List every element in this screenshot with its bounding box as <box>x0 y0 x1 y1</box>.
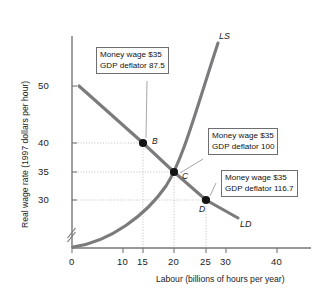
x-tick-label-25: 25 <box>200 256 211 267</box>
x-tick-label-40: 40 <box>271 256 282 267</box>
data-point-label-b: B <box>152 136 158 146</box>
annotation-callout-b: Money wage $35 GDP deflator 87.5 <box>96 47 169 74</box>
data-point-d <box>202 196 210 204</box>
annotation-c-line1: Money wage $35 <box>212 131 274 142</box>
guide-lines <box>72 143 206 248</box>
y-axis-ticks <box>72 86 77 200</box>
x-tick-label-15: 15 <box>137 256 148 267</box>
annotation-b-line2: GDP deflator 87.5 <box>100 61 165 72</box>
chart-figure: 50 40 35 30 0 10 15 20 25 30 40 Real wag… <box>0 0 329 295</box>
data-point-label-d: D <box>199 204 205 214</box>
leader-line-b <box>146 81 147 138</box>
data-point-label-c: C <box>182 171 188 181</box>
y-tick-label-50: 50 <box>38 80 49 91</box>
y-tick-label-40: 40 <box>38 137 49 148</box>
annotation-b-line1: Money wage $35 <box>100 50 165 61</box>
annotation-callout-c: Money wage $35 GDP deflator 100 <box>208 128 278 155</box>
data-point-b <box>139 139 147 147</box>
x-axis-title: Labour (billions of hours per year) <box>156 274 285 284</box>
annotation-callout-d: Money wage $35 GDP deflator 116.7 <box>221 170 298 197</box>
chart-plot-area <box>0 0 329 295</box>
x-tick-label-10: 10 <box>117 256 128 267</box>
x-tick-label-30: 30 <box>220 256 231 267</box>
y-tick-label-35: 35 <box>38 166 49 177</box>
curve-label-ld: LD <box>240 219 252 229</box>
data-point-c <box>170 168 178 176</box>
annotation-c-line2: GDP deflator 100 <box>212 142 274 153</box>
x-axis-ticks <box>72 248 277 253</box>
annotation-d-line2: GDP deflator 116.7 <box>225 184 294 195</box>
x-tick-label-20: 20 <box>168 256 179 267</box>
y-axis-title: Real wage rate (1997 dollars per hour) <box>20 81 30 228</box>
y-tick-label-30: 30 <box>38 194 49 205</box>
annotation-d-line1: Money wage $35 <box>225 173 294 184</box>
curve-label-ls: LS <box>219 31 230 41</box>
x-tick-label-0: 0 <box>69 256 74 267</box>
leader-line-d <box>210 183 216 196</box>
